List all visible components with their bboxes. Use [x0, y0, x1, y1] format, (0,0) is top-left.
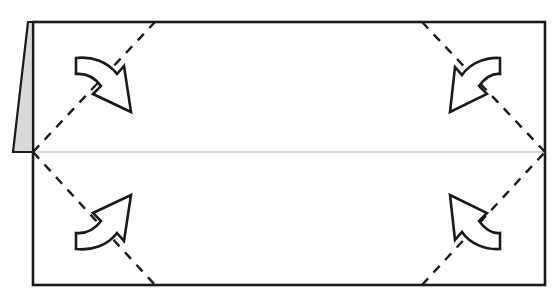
- folded-paper-sheet: [33, 22, 545, 285]
- origami-figure: [0, 0, 554, 308]
- origami-diagram: [0, 0, 554, 308]
